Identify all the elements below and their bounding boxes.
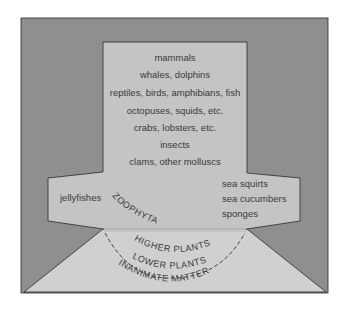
label-jellyfishes: jellyfishes <box>59 192 101 203</box>
label-octopuses-squids: octopuses, squids, etc. <box>127 105 224 116</box>
label-sponges: sponges <box>222 208 258 219</box>
label-clams-molluscs: clams, other molluscs <box>129 156 221 167</box>
label-mammals: mammals <box>154 52 195 63</box>
label-sea-squirts: sea squirts <box>222 178 268 189</box>
label-sea-cucumbers: sea cucumbers <box>222 193 287 204</box>
label-whales-dolphins: whales, dolphins <box>139 69 210 80</box>
scala-naturae-diagram: mammals whales, dolphins reptiles, birds… <box>0 0 345 311</box>
label-insects: insects <box>160 139 190 150</box>
label-crabs-lobsters: crabs, lobsters, etc. <box>134 122 216 133</box>
label-reptiles-birds-amphibians-fish: reptiles, birds, amphibians, fish <box>110 87 240 98</box>
